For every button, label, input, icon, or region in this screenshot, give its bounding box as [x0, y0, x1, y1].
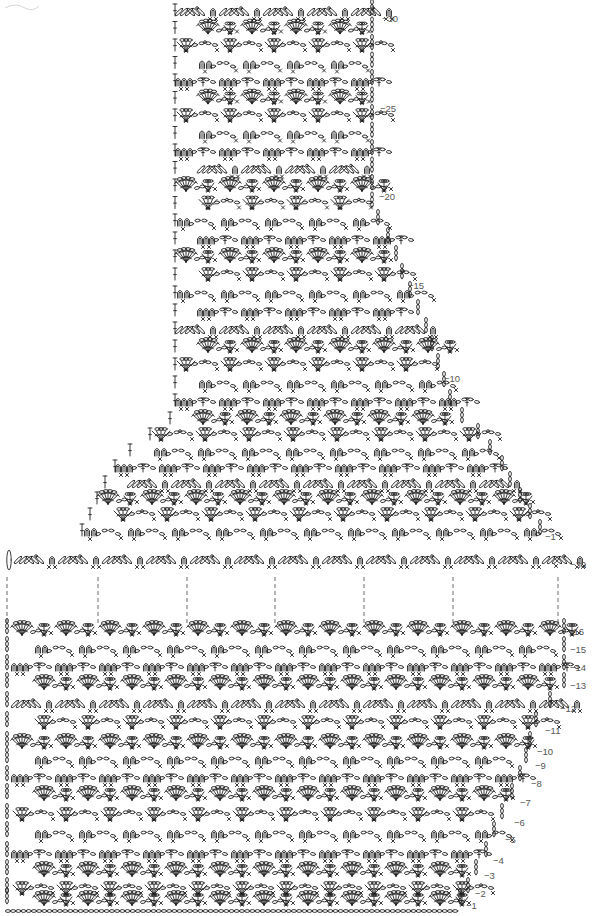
- picot-inner: [37, 647, 39, 653]
- single-crochet-stitch: [396, 537, 399, 540]
- upper-row: [173, 87, 373, 105]
- single-crochet-stitch: [71, 796, 74, 799]
- picot-inner: [156, 450, 158, 456]
- picot-inner: [309, 80, 311, 86]
- single-crochet-stitch: [295, 245, 298, 248]
- chain-stitch: [238, 466, 244, 470]
- single-crochet-stitch: [355, 407, 358, 410]
- chain-stitch: [278, 272, 283, 275]
- chain-stitch: [184, 900, 190, 904]
- picot-inner: [220, 647, 222, 653]
- picot-inner: [57, 665, 59, 671]
- single-crochet-stitch: [390, 335, 393, 338]
- slip-stitch: [380, 41, 383, 44]
- picot-inner: [321, 80, 323, 86]
- chain-stitch: [96, 684, 102, 688]
- picot-inner: [327, 852, 329, 858]
- chain-stitch: [110, 649, 116, 653]
- picot-inner: [145, 852, 147, 858]
- single-crochet-stitch: [505, 783, 508, 786]
- chain-stitch: [297, 910, 302, 913]
- picot-inner: [355, 220, 357, 226]
- single-crochet-stitch: [70, 838, 73, 841]
- single-crochet-stitch: [391, 367, 394, 370]
- chain-stitch: [222, 760, 228, 764]
- single-crochet-stitch: [212, 298, 215, 301]
- single-crochet-stitch: [383, 536, 386, 539]
- single-crochet-stitch: [229, 565, 232, 568]
- chain-stitch: [371, 144, 374, 149]
- chain-stitch: [286, 834, 292, 838]
- single-crochet-stitch: [334, 457, 337, 460]
- picot-inner: [299, 310, 301, 316]
- chain-stitch: [316, 795, 322, 799]
- single-crochet-stitch: [153, 672, 156, 675]
- picot-inner: [415, 665, 417, 671]
- picot-inner: [255, 310, 257, 316]
- single-crochet-stitch: [171, 765, 174, 768]
- chain-stitch: [401, 273, 404, 278]
- upper-row: [88, 503, 552, 521]
- chain-stitch: [444, 886, 449, 889]
- picot-inner: [69, 852, 71, 858]
- single-crochet-stitch: [264, 537, 267, 540]
- chain-stitch: [423, 852, 429, 856]
- single-crochet-stitch: [388, 298, 391, 301]
- picot-inner: [356, 702, 358, 708]
- single-crochet-stitch: [323, 672, 326, 675]
- single-crochet-stitch: [185, 407, 188, 410]
- slip-stitch: [84, 810, 87, 813]
- chain-stitch: [395, 910, 400, 913]
- chain-stitch: [414, 466, 420, 470]
- picot-inner: [208, 482, 210, 488]
- chain-stitch: [53, 646, 58, 649]
- single-crochet-stitch: [461, 783, 464, 786]
- chain-stitch: [74, 630, 80, 634]
- chain-stitch: [286, 649, 292, 653]
- guide-lines: [7, 577, 558, 624]
- chain-stitch: [273, 831, 278, 834]
- picot-inner: [377, 776, 379, 782]
- chain-stitch: [6, 803, 9, 808]
- single-crochet-stitch: [531, 500, 534, 503]
- single-crochet-stitch: [402, 709, 405, 712]
- chain-stitch: [360, 871, 366, 875]
- chain-stitch: [266, 665, 272, 669]
- single-crochet-stitch: [163, 536, 166, 539]
- lower-row-label: −7: [520, 797, 531, 808]
- picot-inner: [397, 400, 399, 406]
- single-crochet-stitch: [423, 389, 426, 392]
- slip-stitch: [361, 510, 364, 513]
- single-crochet-stitch: [189, 456, 192, 459]
- chain-stitch: [342, 80, 348, 84]
- picot-inner: [296, 482, 298, 488]
- single-crochet-stitch: [347, 118, 350, 121]
- chain-stitch: [185, 646, 190, 649]
- lower-row: [6, 636, 566, 657]
- single-crochet-stitch: [531, 565, 534, 568]
- chain-stitch: [449, 646, 454, 649]
- single-crochet-stitch: [215, 654, 218, 657]
- chain-stitch: [229, 646, 234, 649]
- picot-inner: [173, 466, 175, 472]
- single-crochet-stitch: [171, 839, 174, 842]
- chain-stitch: [178, 834, 184, 838]
- chain-stitch: [490, 720, 495, 723]
- picot-inner: [437, 466, 439, 472]
- chain-stitch: [172, 449, 177, 452]
- single-crochet-stitch: [226, 709, 229, 712]
- chain-stitch: [271, 910, 276, 913]
- chain-stitch: [322, 272, 327, 275]
- lower-row: [6, 654, 580, 675]
- chain-stitch: [360, 684, 366, 688]
- picot-inner: [239, 665, 241, 671]
- upper-row: [173, 353, 439, 371]
- stitch-cross-bar: [520, 514, 523, 515]
- chain-stitch: [349, 512, 354, 515]
- picot-inner: [365, 665, 367, 671]
- chain-stitch: [78, 910, 83, 913]
- slip-stitch: [405, 510, 408, 513]
- chain-stitch: [371, 92, 374, 97]
- single-crochet-stitch: [367, 30, 370, 33]
- single-crochet-stitch: [235, 100, 238, 103]
